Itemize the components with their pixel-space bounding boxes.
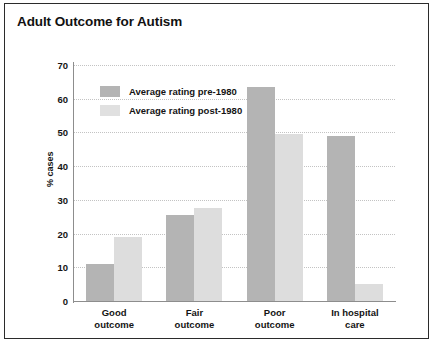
bar	[114, 237, 142, 301]
bar	[194, 208, 222, 301]
legend-swatch-icon-pre-1980	[100, 86, 120, 97]
x-category-label: Poor outcome	[235, 307, 315, 331]
chart-title: Adult Outcome for Autism	[17, 14, 182, 29]
bar	[275, 134, 303, 301]
gridline	[74, 132, 395, 133]
legend-item-post-1980: Average rating post-1980	[100, 101, 242, 120]
x-category-label: Good outcome	[74, 307, 154, 331]
bar	[86, 264, 114, 301]
legend-swatch-icon-post-1980	[100, 105, 120, 116]
chart-legend: Average rating pre-1980 Average rating p…	[100, 82, 242, 120]
legend-label-pre-1980: Average rating pre-1980	[129, 86, 237, 97]
y-tick-label: 20	[42, 228, 68, 239]
bar	[166, 215, 194, 301]
y-tick-label: 10	[42, 262, 68, 273]
legend-label-post-1980: Average rating post-1980	[129, 105, 242, 116]
y-tick-label: 70	[42, 60, 68, 71]
y-tick-label: 40	[42, 161, 68, 172]
bar	[247, 87, 275, 301]
y-tick-label: 0	[42, 296, 68, 307]
bar	[327, 136, 355, 301]
legend-item-pre-1980: Average rating pre-1980	[100, 82, 242, 101]
bar	[355, 284, 383, 301]
x-category-label: In hospital care	[315, 307, 395, 331]
x-axis-line	[73, 301, 396, 302]
y-tick-label: 60	[42, 93, 68, 104]
x-category-label: Fair outcome	[154, 307, 234, 331]
y-tick-label: 50	[42, 127, 68, 138]
gridline	[74, 65, 395, 66]
y-tick-label: 30	[42, 194, 68, 205]
chart-figure: Adult Outcome for Autism % cases 0102030…	[4, 3, 429, 339]
